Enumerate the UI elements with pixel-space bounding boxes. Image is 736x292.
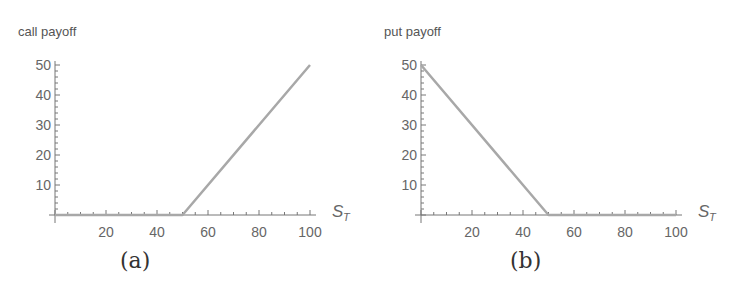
x-tick-label: 80 — [617, 224, 633, 240]
x-tick-label: 80 — [251, 224, 267, 240]
call-payoff-chart: call payoff 102030405020406080100ST (a) — [0, 0, 368, 292]
y-tick-label: 20 — [401, 147, 417, 163]
y-tick-label: 50 — [35, 57, 51, 73]
svg-text:T: T — [709, 211, 717, 223]
x-tick-label: 100 — [298, 224, 322, 240]
y-tick-label: 20 — [35, 147, 51, 163]
x-tick-label: 40 — [515, 224, 531, 240]
payoff-line — [421, 65, 676, 215]
svg-text:T: T — [343, 211, 351, 223]
y-tick-label: 30 — [401, 117, 417, 133]
x-tick-label: 20 — [464, 224, 480, 240]
y-tick-label: 40 — [35, 87, 51, 103]
x-tick-label: 100 — [664, 224, 688, 240]
x-tick-label: 40 — [149, 224, 165, 240]
y-tick-label: 30 — [35, 117, 51, 133]
plot-area: 102030405020406080100ST — [0, 0, 368, 292]
panel-caption: (a) — [120, 248, 150, 273]
x-tick-label: 60 — [566, 224, 582, 240]
panel-caption: (b) — [510, 248, 541, 273]
put-payoff-chart: put payoff 102030405020406080100ST (b) — [366, 0, 734, 292]
y-tick-label: 40 — [401, 87, 417, 103]
y-tick-label: 10 — [35, 177, 51, 193]
y-tick-label: 50 — [401, 57, 417, 73]
plot-area: 102030405020406080100ST — [366, 0, 734, 292]
x-tick-label: 20 — [98, 224, 114, 240]
payoff-line — [55, 65, 310, 215]
y-tick-label: 10 — [401, 177, 417, 193]
x-tick-label: 60 — [200, 224, 216, 240]
